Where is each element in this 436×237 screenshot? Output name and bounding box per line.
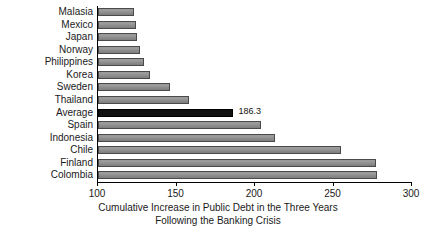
- category-label-sweden: Sweden: [57, 81, 93, 93]
- category-label-colombia: Colombia: [51, 169, 93, 181]
- bar-norway: [98, 46, 140, 54]
- category-label-average: Average: [56, 107, 93, 119]
- x-tick-100: [97, 182, 98, 186]
- x-tick-label-200: 200: [246, 188, 263, 200]
- x-tick-label-150: 150: [167, 188, 184, 200]
- bar-mexico: [98, 21, 136, 29]
- x-axis-title: Cumulative Increase in Public Debt in th…: [0, 201, 436, 227]
- bar-average: [98, 109, 233, 117]
- bar-finland: [98, 159, 376, 167]
- category-label-norway: Norway: [59, 44, 93, 56]
- x-tick-300: [411, 182, 412, 186]
- bar-chart: 186.3 100150200250300 MalasiaMexicoJapan…: [0, 0, 436, 237]
- category-label-korea: Korea: [66, 69, 93, 81]
- category-label-spain: Spain: [67, 119, 93, 131]
- x-tick-label-300: 300: [403, 188, 420, 200]
- category-label-malasia: Malasia: [59, 6, 93, 18]
- bar-value-label: 186.3: [238, 105, 261, 117]
- category-label-thailand: Thailand: [55, 94, 93, 106]
- bar-malasia: [98, 8, 134, 16]
- bar-chile: [98, 146, 341, 154]
- category-label-philippines: Philippines: [45, 56, 93, 68]
- x-tick-label-250: 250: [324, 188, 341, 200]
- x-tick-label-100: 100: [89, 188, 106, 200]
- bar-spain: [98, 121, 261, 129]
- category-label-indonesia: Indonesia: [50, 132, 93, 144]
- category-label-chile: Chile: [70, 144, 93, 156]
- bar-thailand: [98, 96, 189, 104]
- x-tick-150: [176, 182, 177, 186]
- x-tick-200: [254, 182, 255, 186]
- category-label-japan: Japan: [66, 31, 93, 43]
- bar-indonesia: [98, 134, 275, 142]
- x-axis-title-line-2: Following the Banking Crisis: [0, 214, 436, 227]
- category-label-finland: Finland: [60, 157, 93, 169]
- bar-sweden: [98, 83, 170, 91]
- x-axis-title-line-1: Cumulative Increase in Public Debt in th…: [98, 202, 337, 213]
- bar-japan: [98, 33, 137, 41]
- x-tick-250: [333, 182, 334, 186]
- bar-philippines: [98, 58, 144, 66]
- bar-colombia: [98, 171, 377, 179]
- category-label-mexico: Mexico: [61, 19, 93, 31]
- plot-area: 186.3 100150200250300: [97, 6, 411, 182]
- bar-korea: [98, 71, 150, 79]
